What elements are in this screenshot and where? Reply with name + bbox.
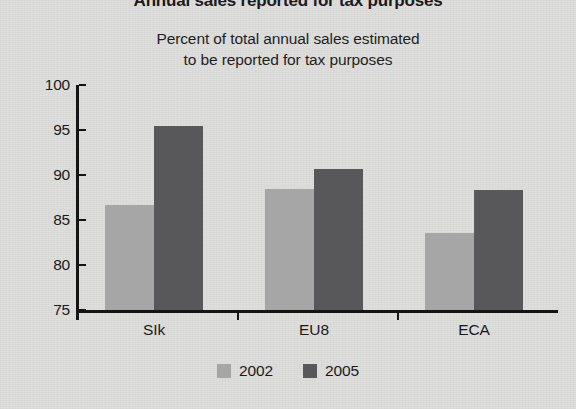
- x-axis-label-eu8: EU8: [299, 321, 329, 339]
- chart-legend: 20022005: [0, 362, 576, 380]
- bar-chart-plot-area: 7580859095100 SIkEU8ECA: [0, 0, 576, 409]
- bar-eu8-2002: [265, 189, 314, 310]
- x-axis-line: [76, 310, 558, 313]
- legend-label-2005: 2005: [325, 362, 359, 380]
- bar-series-group: [0, 0, 576, 310]
- x-axis-tick: [237, 313, 239, 320]
- x-axis-label-eca: ECA: [458, 321, 490, 339]
- bar-sik-2005: [154, 126, 203, 310]
- bar-eu8-2005: [314, 169, 363, 310]
- x-axis-tick: [397, 313, 399, 320]
- bar-sik-2002: [105, 205, 154, 310]
- bar-eca-2005: [474, 190, 523, 310]
- legend-swatch-icon-2005: [303, 364, 317, 378]
- legend-label-2002: 2002: [239, 362, 273, 380]
- bar-eca-2002: [425, 233, 474, 310]
- x-axis-label-sik: SIk: [143, 321, 165, 339]
- legend-item-2002[interactable]: 2002: [217, 362, 273, 380]
- legend-swatch-icon-2002: [217, 364, 231, 378]
- x-axis-tick: [76, 313, 78, 320]
- legend-item-2005[interactable]: 2005: [303, 362, 359, 380]
